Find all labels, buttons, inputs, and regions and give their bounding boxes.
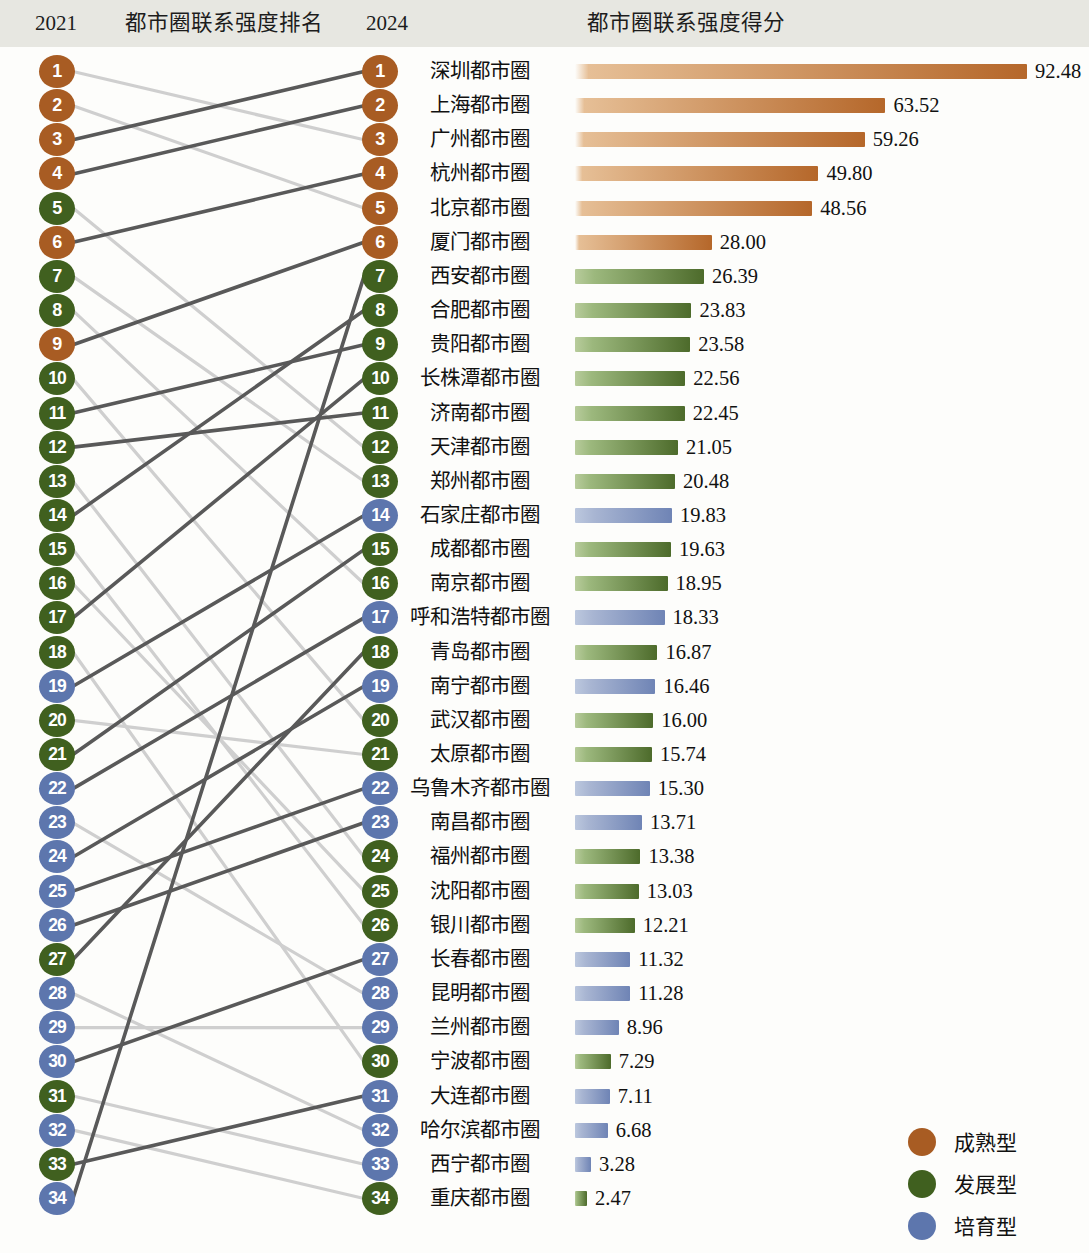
city-name-label: 济南都市圈 [395, 396, 565, 430]
score-row: 厦门都市圈28.00 [0, 225, 1089, 259]
score-bar [575, 98, 885, 113]
score-value-label: 16.46 [663, 669, 709, 703]
score-row: 成都都市圈19.63 [0, 532, 1089, 566]
score-row: 南昌都市圈13.71 [0, 805, 1089, 839]
score-row: 西安都市圈26.39 [0, 259, 1089, 293]
city-name-label: 太原都市圈 [395, 737, 565, 771]
city-name-label: 北京都市圈 [395, 191, 565, 225]
score-bar [575, 576, 668, 591]
score-bar [575, 235, 712, 250]
score-row: 石家庄都市圈19.83 [0, 498, 1089, 532]
score-value-label: 7.29 [619, 1044, 655, 1078]
score-value-label: 20.48 [683, 464, 729, 498]
score-bar [575, 815, 642, 830]
score-row: 太原都市圈15.74 [0, 737, 1089, 771]
score-value-label: 12.21 [643, 908, 689, 942]
score-value-label: 49.80 [826, 156, 872, 190]
score-value-label: 19.63 [679, 532, 725, 566]
city-name-label: 西安都市圈 [395, 259, 565, 293]
score-row: 长株潭都市圈22.56 [0, 361, 1089, 395]
score-bar [575, 610, 665, 625]
header-band: 2021 都市圈联系强度排名 2024 都市圈联系强度得分 [0, 0, 1089, 47]
score-bar [575, 166, 818, 181]
score-value-label: 21.05 [686, 430, 732, 464]
score-row: 青岛都市圈16.87 [0, 635, 1089, 669]
city-name-label: 厦门都市圈 [395, 225, 565, 259]
score-bar [575, 986, 630, 1001]
score-value-label: 15.74 [660, 737, 706, 771]
city-name-label: 南昌都市圈 [395, 805, 565, 839]
ranking-infographic: 2021 都市圈联系强度排名 2024 都市圈联系强度得分 1234567891… [0, 0, 1089, 1253]
score-value-label: 13.71 [650, 805, 696, 839]
city-name-label: 广州都市圈 [395, 122, 565, 156]
city-name-label: 深圳都市圈 [395, 54, 565, 88]
score-row: 南京都市圈18.95 [0, 566, 1089, 600]
score-bar [575, 884, 639, 899]
score-row: 北京都市圈48.56 [0, 191, 1089, 225]
score-bar [575, 542, 671, 557]
city-name-label: 南宁都市圈 [395, 669, 565, 703]
header-title-rank: 都市圈联系强度排名 [125, 0, 323, 47]
legend-label: 成熟型 [954, 1122, 1017, 1164]
city-name-label: 合肥都市圈 [395, 293, 565, 327]
city-name-label: 杭州都市圈 [395, 156, 565, 190]
score-bar [575, 201, 812, 216]
score-bar [575, 645, 657, 660]
legend-dot-icon [908, 1212, 936, 1240]
score-bar [575, 1123, 608, 1138]
city-name-label: 长春都市圈 [395, 942, 565, 976]
score-bar [575, 679, 655, 694]
city-name-label: 福州都市圈 [395, 839, 565, 873]
score-value-label: 3.28 [599, 1147, 635, 1181]
score-row: 深圳都市圈92.48 [0, 54, 1089, 88]
score-value-label: 16.87 [665, 635, 711, 669]
score-value-label: 63.52 [893, 88, 939, 122]
score-value-label: 18.95 [676, 566, 722, 600]
score-row: 银川都市圈12.21 [0, 908, 1089, 942]
score-value-label: 22.56 [693, 361, 739, 395]
score-value-label: 19.83 [680, 498, 726, 532]
score-bar [575, 269, 704, 284]
score-bar [575, 371, 685, 386]
score-bar-list: 深圳都市圈92.48上海都市圈63.52广州都市圈59.26杭州都市圈49.80… [0, 47, 1089, 1253]
score-value-label: 18.33 [673, 600, 719, 634]
city-name-label: 武汉都市圈 [395, 703, 565, 737]
score-bar [575, 64, 1027, 79]
header-year-2024: 2024 [366, 0, 408, 47]
city-name-label: 西宁都市圈 [395, 1147, 565, 1181]
city-name-label: 兰州都市圈 [395, 1010, 565, 1044]
score-row: 南宁都市圈16.46 [0, 669, 1089, 703]
city-name-label: 石家庄都市圈 [395, 498, 565, 532]
city-name-label: 呼和浩特都市圈 [395, 600, 565, 634]
score-row: 兰州都市圈8.96 [0, 1010, 1089, 1044]
city-name-label: 青岛都市圈 [395, 635, 565, 669]
city-name-label: 哈尔滨都市圈 [395, 1113, 565, 1147]
score-bar [575, 1020, 619, 1035]
score-value-label: 11.28 [638, 976, 683, 1010]
score-bar [575, 406, 685, 421]
score-row: 武汉都市圈16.00 [0, 703, 1089, 737]
score-row: 贵阳都市圈23.58 [0, 327, 1089, 361]
score-row: 天津都市圈21.05 [0, 430, 1089, 464]
score-value-label: 2.47 [595, 1181, 631, 1215]
score-row: 沈阳都市圈13.03 [0, 874, 1089, 908]
score-bar [575, 918, 635, 933]
score-row: 济南都市圈22.45 [0, 396, 1089, 430]
score-bar [575, 474, 675, 489]
score-row: 郑州都市圈20.48 [0, 464, 1089, 498]
city-name-label: 贵阳都市圈 [395, 327, 565, 361]
score-value-label: 23.58 [698, 327, 744, 361]
score-row: 福州都市圈13.38 [0, 839, 1089, 873]
score-bar [575, 440, 678, 455]
score-bar [575, 132, 865, 147]
city-name-label: 郑州都市圈 [395, 464, 565, 498]
score-row: 乌鲁木齐都市圈15.30 [0, 771, 1089, 805]
city-name-label: 上海都市圈 [395, 88, 565, 122]
score-value-label: 28.00 [720, 225, 766, 259]
header-title-score: 都市圈联系强度得分 [587, 0, 785, 47]
legend-dot-icon [908, 1128, 936, 1156]
city-name-label: 宁波都市圈 [395, 1044, 565, 1078]
score-bar [575, 337, 690, 352]
score-value-label: 6.68 [616, 1113, 652, 1147]
score-row: 长春都市圈11.32 [0, 942, 1089, 976]
